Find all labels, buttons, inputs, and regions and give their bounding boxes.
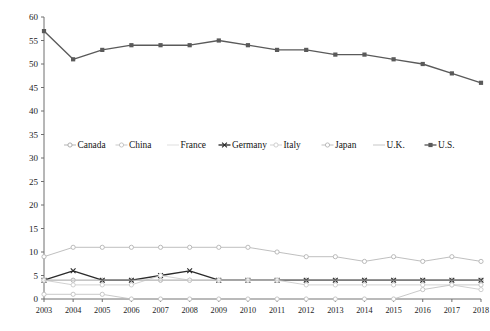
y-tick-label: 30 xyxy=(29,153,39,163)
legend-item-uk[interactable]: U.K. xyxy=(373,140,405,150)
series-layer xyxy=(42,29,484,301)
y-tick-label: 45 xyxy=(29,83,39,93)
data-point-marker xyxy=(129,283,133,287)
legend-item-france[interactable]: France xyxy=(167,140,206,150)
data-point-marker xyxy=(333,255,337,259)
data-point-marker xyxy=(421,259,425,263)
series-italy xyxy=(42,273,483,291)
y-tick-label: 5 xyxy=(34,271,39,281)
legend-swatch-marker xyxy=(68,143,72,147)
data-point-marker xyxy=(392,57,396,61)
y-axis: 051015202530354045505560 xyxy=(29,12,44,304)
legend-label: Germany xyxy=(232,140,267,150)
legend-label: Canada xyxy=(78,140,107,150)
legend-swatch-marker xyxy=(428,143,432,147)
y-tick-label: 50 xyxy=(29,59,39,69)
y-tick-label: 10 xyxy=(29,247,39,257)
legend-swatch-marker xyxy=(325,143,329,147)
data-point-marker xyxy=(421,288,425,292)
data-point-marker xyxy=(333,283,337,287)
x-tick-label: 2018 xyxy=(473,306,489,315)
y-tick-label: 35 xyxy=(29,130,39,140)
data-point-marker xyxy=(188,297,192,301)
data-point-marker xyxy=(42,29,46,33)
x-tick-label: 2017 xyxy=(444,306,460,315)
data-point-marker xyxy=(71,283,75,287)
legend-swatch-marker xyxy=(274,143,278,147)
data-point-marker xyxy=(333,297,337,301)
data-point-marker xyxy=(450,71,454,75)
series-line xyxy=(44,31,481,83)
x-tick-label: 2009 xyxy=(211,306,227,315)
x-tick-label: 2005 xyxy=(94,306,110,315)
data-point-marker xyxy=(362,259,366,263)
series-line xyxy=(44,276,481,290)
data-point-marker xyxy=(275,48,279,52)
data-point-marker xyxy=(100,245,104,249)
data-point-marker xyxy=(392,297,396,301)
data-point-marker xyxy=(333,53,337,57)
data-point-marker xyxy=(450,283,454,287)
data-point-marker xyxy=(71,292,75,296)
x-tick-label: 2016 xyxy=(415,306,431,315)
data-point-marker xyxy=(479,283,483,287)
legend-label: Italy xyxy=(284,140,301,150)
data-point-marker xyxy=(304,48,308,52)
legend-item-japan[interactable]: Japan xyxy=(322,140,357,150)
data-point-marker xyxy=(246,245,250,249)
data-point-marker xyxy=(421,62,425,66)
data-point-marker xyxy=(71,245,75,249)
data-point-marker xyxy=(304,297,308,301)
y-tick-label: 25 xyxy=(29,177,39,187)
legend-label: U.S. xyxy=(438,140,455,150)
data-point-marker xyxy=(158,245,162,249)
data-point-marker xyxy=(158,297,162,301)
data-point-marker xyxy=(100,48,104,52)
data-point-marker xyxy=(158,273,162,277)
legend-item-italy[interactable]: Italy xyxy=(270,140,301,150)
legend-item-canada[interactable]: Canada xyxy=(64,140,106,150)
data-point-marker xyxy=(450,255,454,259)
data-point-marker xyxy=(246,43,250,47)
data-point-marker xyxy=(392,255,396,259)
x-tick-label: 2013 xyxy=(327,306,343,315)
line-chart: 051015202530354045505560 200320042005200… xyxy=(0,0,490,331)
data-point-marker xyxy=(362,297,366,301)
x-tick-label: 2015 xyxy=(385,306,401,315)
data-point-marker xyxy=(71,57,75,61)
x-tick-label: 2006 xyxy=(123,306,139,315)
data-point-marker xyxy=(129,245,133,249)
x-tick-label: 2008 xyxy=(181,306,197,315)
data-point-marker xyxy=(100,292,104,296)
data-point-marker xyxy=(217,245,221,249)
data-point-marker xyxy=(188,245,192,249)
legend-item-us[interactable]: U.S. xyxy=(425,140,455,150)
data-point-marker xyxy=(42,255,46,259)
chart-legend: CanadaChinaFranceGermanyItalyJapanU.K.U.… xyxy=(64,140,455,150)
series-japan xyxy=(42,245,483,263)
y-tick-label: 15 xyxy=(29,224,39,234)
legend-item-germany[interactable]: Germany xyxy=(219,140,268,150)
y-tick-label: 40 xyxy=(29,106,39,116)
legend-item-china[interactable]: China xyxy=(116,140,153,150)
y-tick-label: 20 xyxy=(29,200,39,210)
x-tick-label: 2010 xyxy=(240,306,256,315)
data-point-marker xyxy=(275,250,279,254)
data-point-marker xyxy=(304,255,308,259)
data-point-marker xyxy=(129,297,133,301)
x-axis: 2003200420052006200720082009201020112012… xyxy=(36,299,489,315)
data-point-marker xyxy=(42,292,46,296)
data-point-marker xyxy=(304,283,308,287)
data-point-marker xyxy=(275,297,279,301)
data-point-marker xyxy=(100,283,104,287)
y-tick-label: 0 xyxy=(34,294,39,304)
data-point-marker xyxy=(129,43,133,47)
x-tick-label: 2003 xyxy=(36,306,52,315)
data-point-marker xyxy=(421,283,425,287)
legend-swatch-marker xyxy=(119,143,123,147)
data-point-marker xyxy=(479,81,483,85)
data-point-marker xyxy=(188,43,192,47)
x-tick-label: 2004 xyxy=(65,306,81,315)
data-point-marker xyxy=(246,297,250,301)
chart-canvas: 051015202530354045505560 200320042005200… xyxy=(0,0,490,331)
